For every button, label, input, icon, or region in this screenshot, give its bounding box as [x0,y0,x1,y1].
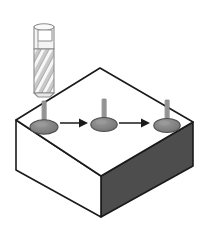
plunge-1-stem [42,101,46,121]
plunge-2-highlight [95,120,107,125]
end-mill-flutes [34,49,54,93]
plunge-3-stem [165,100,169,119]
diagram-canvas [0,0,209,235]
plunge-1-highlight [35,122,47,127]
plunge-3-pocket [154,119,180,133]
end-mill-tool [34,24,54,97]
end-mill-tip [34,93,54,97]
end-mill-weldon-flat [38,30,52,41]
plunge-2-stem [102,99,106,118]
plunge-3-highlight [158,121,170,126]
end-mill-shank-top [34,24,54,30]
plunge-1-pocket [30,120,58,134]
plunge-2-pocket [91,118,117,132]
machining-diagram-figure: End mill plunge sequence on rectangular … [0,0,209,235]
